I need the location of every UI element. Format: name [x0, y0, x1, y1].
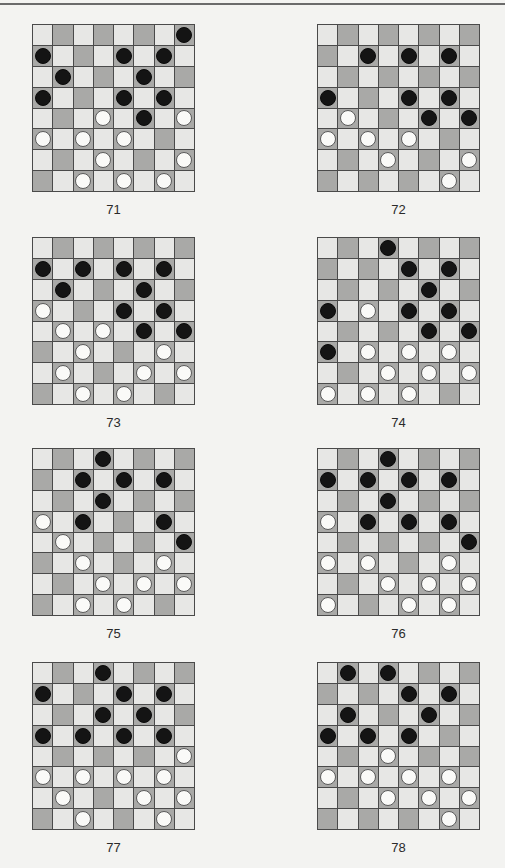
white-checker-icon [360, 555, 376, 571]
board-square [74, 342, 93, 362]
board-square [399, 301, 418, 321]
board-square [33, 491, 52, 511]
board-square [33, 574, 52, 594]
board-square [175, 533, 194, 553]
white-checker-icon [75, 769, 91, 785]
board-square [399, 726, 418, 746]
board-square [338, 595, 357, 615]
board-square [175, 684, 194, 704]
board-square [53, 470, 72, 490]
board-square [134, 533, 153, 553]
board-square [114, 512, 133, 532]
white-checker-icon [116, 597, 132, 613]
black-checker-icon [421, 110, 437, 126]
board-square [399, 470, 418, 490]
white-checker-icon [401, 131, 417, 147]
white-checker-icon [176, 152, 192, 168]
board-square [33, 595, 52, 615]
board-square [399, 46, 418, 66]
board-square [338, 150, 357, 170]
board-square [460, 363, 479, 383]
board-square [419, 663, 438, 683]
board-square [53, 553, 72, 573]
board-square [419, 809, 438, 829]
black-checker-icon [95, 665, 111, 681]
board-square [33, 767, 52, 787]
board-square [440, 553, 459, 573]
board-square [399, 238, 418, 258]
board-square [460, 595, 479, 615]
diagram-number: 74 [317, 415, 480, 430]
black-checker-icon [441, 90, 457, 106]
board-square [114, 767, 133, 787]
board-square [359, 726, 378, 746]
board-square [74, 259, 93, 279]
white-checker-icon [360, 386, 376, 402]
board-square [175, 705, 194, 725]
diagram-number: 78 [317, 840, 480, 855]
white-checker-icon [380, 790, 396, 806]
board-square [419, 384, 438, 404]
board-square [440, 533, 459, 553]
board-square [338, 280, 357, 300]
board-square [338, 705, 357, 725]
board-square [155, 470, 174, 490]
white-checker-icon [401, 386, 417, 402]
white-checker-icon [75, 597, 91, 613]
board-square [359, 788, 378, 808]
white-checker-icon [441, 811, 457, 827]
board-square [94, 767, 113, 787]
board-square [338, 342, 357, 362]
board-square [134, 595, 153, 615]
black-checker-icon [75, 472, 91, 488]
board-square [359, 767, 378, 787]
checkers-board [32, 662, 195, 830]
board-square [175, 553, 194, 573]
black-checker-icon [401, 48, 417, 64]
board-square [399, 342, 418, 362]
board-square [175, 259, 194, 279]
board-square [33, 259, 52, 279]
board-square [460, 171, 479, 191]
black-checker-icon [380, 493, 396, 509]
board-square [134, 150, 153, 170]
board-square [359, 684, 378, 704]
board-square [53, 809, 72, 829]
board-square [318, 280, 337, 300]
board-square [419, 595, 438, 615]
board-square [134, 705, 153, 725]
black-checker-icon [95, 493, 111, 509]
board-square [440, 809, 459, 829]
white-checker-icon [441, 769, 457, 785]
board-square [33, 470, 52, 490]
board-square [318, 301, 337, 321]
board-square [460, 67, 479, 87]
board-square [33, 88, 52, 108]
board-square [440, 171, 459, 191]
white-checker-icon [380, 365, 396, 381]
black-checker-icon [35, 728, 51, 744]
black-checker-icon [35, 261, 51, 277]
black-checker-icon [75, 261, 91, 277]
board-square [318, 788, 337, 808]
board-square [114, 809, 133, 829]
white-checker-icon [156, 173, 172, 189]
board-square [33, 684, 52, 704]
white-checker-icon [320, 597, 336, 613]
board-square [379, 384, 398, 404]
board-square [359, 553, 378, 573]
board-square [53, 705, 72, 725]
board-square [53, 788, 72, 808]
board-square [318, 46, 337, 66]
diagram-number: 72 [317, 202, 480, 217]
board-square [419, 470, 438, 490]
board-square [399, 553, 418, 573]
board-square [33, 129, 52, 149]
board-square [175, 301, 194, 321]
board-square [359, 322, 378, 342]
board-square [440, 363, 459, 383]
board-square [379, 574, 398, 594]
black-checker-icon [55, 282, 71, 298]
board-square [134, 363, 153, 383]
board-square [33, 67, 52, 87]
